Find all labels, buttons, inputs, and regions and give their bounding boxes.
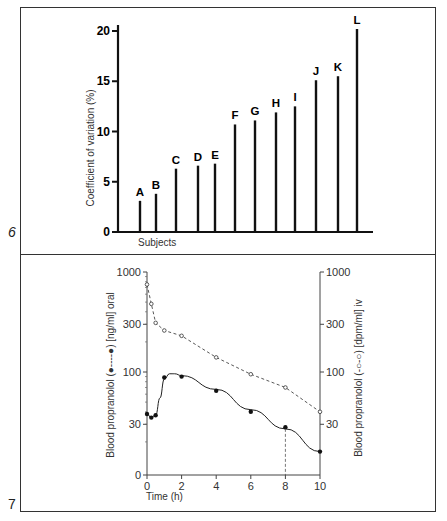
chart7-x-tick-label: 8 bbox=[282, 480, 288, 492]
iv-data-point bbox=[318, 410, 322, 414]
oral-data-point bbox=[214, 389, 218, 393]
oral-data-point bbox=[162, 375, 166, 379]
chart7-right-y-axis-label: Blood propranolol (-○-○) [dpm/ml] iv bbox=[353, 299, 364, 457]
chart7-left-y-axis-label: Blood propranolol (●----●) [ng/ml] oral bbox=[105, 292, 116, 457]
chart7-right-tick-label: 1000 bbox=[326, 266, 350, 278]
iv-data-point bbox=[145, 283, 149, 287]
chart7-left-tick-label: 0 bbox=[135, 469, 141, 481]
oral-data-point bbox=[318, 449, 322, 453]
chart7-left-tick-label: 30 bbox=[129, 418, 141, 430]
oral-data-point bbox=[153, 413, 157, 417]
chart7-x-tick-label: 6 bbox=[248, 480, 254, 492]
chart7-left-tick-label: 300 bbox=[123, 318, 141, 330]
iv-data-point bbox=[154, 321, 158, 325]
oral-data-point bbox=[145, 412, 149, 416]
iv-data-point bbox=[163, 329, 167, 333]
oral-data-point bbox=[149, 415, 153, 419]
iv-data-point bbox=[214, 356, 218, 360]
chart7-axes: 03010030010003010030010000246810 bbox=[117, 266, 351, 492]
chart7-x-axis-label: Time (h) bbox=[146, 491, 183, 502]
oral-data-point bbox=[283, 425, 287, 429]
chart7-series bbox=[145, 283, 322, 475]
iv-data-point bbox=[284, 386, 288, 390]
chart7-x-tick-label: 10 bbox=[314, 480, 326, 492]
iv-data-point bbox=[249, 372, 253, 376]
chart7-right-tick-label: 100 bbox=[326, 366, 344, 378]
oral-data-point bbox=[179, 374, 183, 378]
chart7-right-tick-label: 30 bbox=[326, 418, 338, 430]
iv-series-line bbox=[147, 284, 320, 411]
blood-propranolol-chart: 03010030010003010030010000246810 Blood p… bbox=[0, 0, 447, 521]
chart7-left-tick-label: 100 bbox=[123, 366, 141, 378]
chart7-right-tick-label: 300 bbox=[326, 318, 344, 330]
chart7-left-tick-label: 1000 bbox=[117, 266, 141, 278]
chart7-x-tick-label: 4 bbox=[213, 480, 219, 492]
oral-data-point bbox=[249, 410, 253, 414]
oral-series-line bbox=[147, 374, 320, 452]
iv-data-point bbox=[180, 334, 184, 338]
iv-data-point bbox=[150, 302, 154, 306]
